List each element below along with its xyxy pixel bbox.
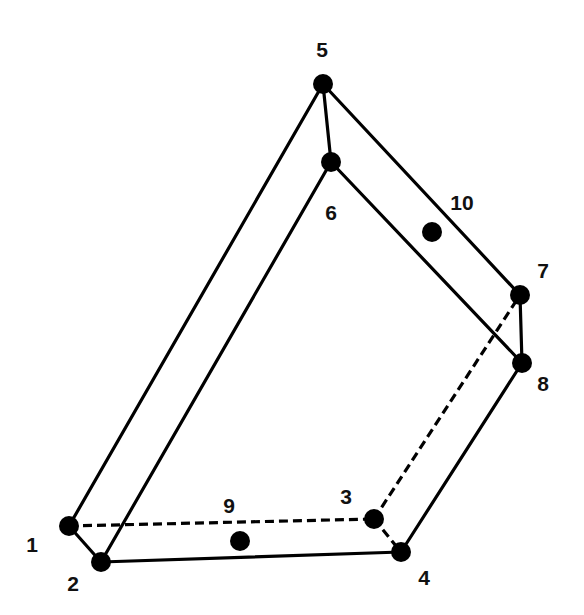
- node-label-7: 7: [537, 260, 549, 281]
- edge-3-7: [374, 295, 520, 519]
- node-10: [422, 222, 442, 242]
- edge-6-8: [331, 162, 522, 363]
- edge-2-4: [101, 552, 401, 562]
- node-label-8: 8: [537, 373, 549, 394]
- node-3: [364, 509, 384, 529]
- node-label-5: 5: [316, 39, 328, 60]
- edges-group: [69, 84, 522, 562]
- nodes-group: [59, 74, 532, 572]
- node-1: [59, 516, 79, 536]
- node-2: [91, 552, 111, 572]
- edge-1-5: [69, 84, 323, 526]
- node-label-1: 1: [26, 534, 38, 555]
- node-label-6: 6: [325, 202, 337, 223]
- hexahedron-diagram: [0, 0, 584, 615]
- node-label-9: 9: [223, 495, 235, 516]
- node-9: [230, 531, 250, 551]
- node-8: [512, 353, 532, 373]
- edge-5-7: [323, 84, 520, 295]
- edge-2-6: [101, 162, 331, 562]
- node-4: [391, 542, 411, 562]
- node-label-3: 3: [340, 486, 352, 507]
- node-5: [313, 74, 333, 94]
- edge-5-6: [323, 84, 331, 162]
- node-7: [510, 285, 530, 305]
- node-label-2: 2: [67, 573, 79, 594]
- edge-7-8: [520, 295, 522, 363]
- node-label-10: 10: [450, 192, 473, 213]
- node-6: [321, 152, 341, 172]
- edge-1-3: [69, 519, 374, 526]
- node-label-4: 4: [418, 567, 430, 588]
- edge-8-4: [401, 363, 522, 552]
